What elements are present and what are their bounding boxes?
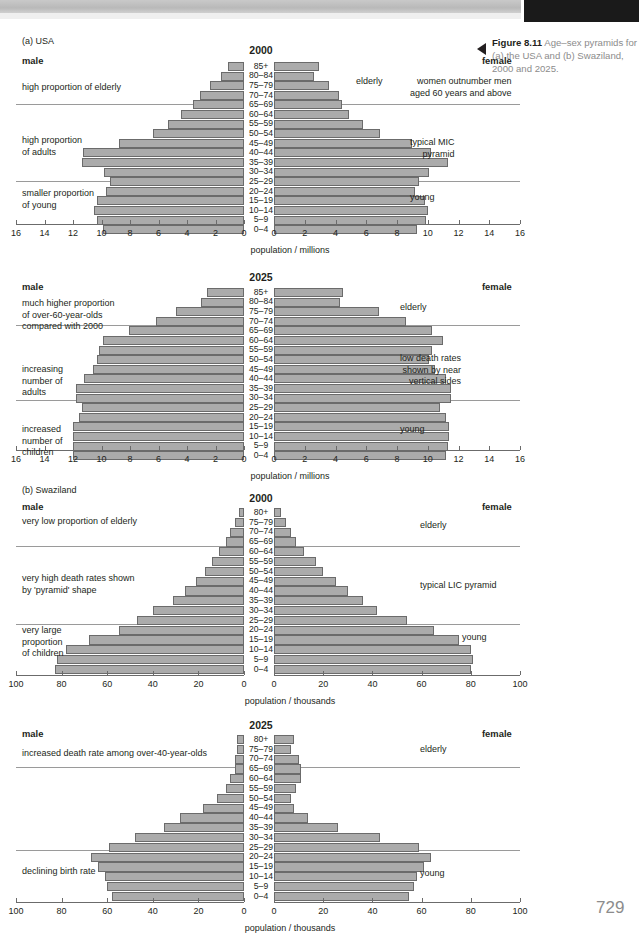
chart-title-year: 2025 xyxy=(230,719,292,731)
annotation-leader-line xyxy=(16,767,244,768)
axis-tick xyxy=(216,220,217,224)
axis-tick-label: 6 xyxy=(354,454,378,464)
bar-male-25–29 xyxy=(82,403,244,412)
axis-tick xyxy=(422,671,423,675)
axis-tick-label: 0 xyxy=(232,906,256,916)
bar-female-70–74 xyxy=(274,528,291,537)
bar-male-70–74 xyxy=(230,528,244,537)
bar-male-25–29 xyxy=(137,616,244,625)
axis-tick-label: 10 xyxy=(90,228,114,238)
axis-tick xyxy=(16,671,17,675)
axis-tick-label: 60 xyxy=(95,679,119,689)
bar-male-45–49 xyxy=(119,139,244,148)
axis-tick xyxy=(153,671,154,675)
bar-female-35–39 xyxy=(274,596,363,605)
bar-female-35–39 xyxy=(274,823,338,832)
page-number: 729 xyxy=(596,898,624,918)
male-label: male xyxy=(22,281,43,292)
bar-male-80+ xyxy=(237,735,244,744)
axis-tick xyxy=(159,446,160,450)
axis-tick xyxy=(45,220,46,224)
axis-tick xyxy=(16,898,17,902)
annotation-right: young xyxy=(410,192,435,204)
axis-tick-label: 80 xyxy=(50,906,74,916)
annotation-left: much higher proportion of over-60-year-o… xyxy=(22,298,115,333)
bar-male-10–14 xyxy=(73,432,244,441)
axis-tick xyxy=(274,898,275,902)
bar-female-20–24 xyxy=(274,853,431,862)
page-header-band xyxy=(0,0,521,13)
axis-tick xyxy=(216,446,217,450)
axis-tick xyxy=(198,898,199,902)
bar-male-50–54 xyxy=(217,794,244,803)
bar-male-40–44 xyxy=(84,374,244,383)
bar-female-15–19 xyxy=(274,862,424,871)
age-group-label: 0–4 xyxy=(246,892,276,902)
bar-female-65–69 xyxy=(274,537,296,546)
bar-female-85+ xyxy=(274,288,343,297)
annotation-left: increasing number of adults xyxy=(22,364,63,399)
axis-tick-label: 4 xyxy=(175,228,199,238)
axis-tick-label: 0 xyxy=(262,906,286,916)
axis-tick xyxy=(520,446,521,450)
age-group-label: 30–34 xyxy=(246,833,276,843)
bar-male-75–79 xyxy=(210,81,244,90)
bar-female-15–19 xyxy=(274,196,425,205)
bar-male-20–24 xyxy=(91,853,244,862)
bar-female-55–59 xyxy=(274,784,296,793)
bar-female-0–4 xyxy=(274,892,409,901)
bar-male-15–19 xyxy=(73,422,244,431)
bar-male-45–49 xyxy=(203,804,244,813)
axis-tick-label: 4 xyxy=(324,454,348,464)
axis-tick-label: 0 xyxy=(262,228,286,238)
bar-male-0–4 xyxy=(55,665,244,674)
bar-male-20–24 xyxy=(119,626,244,635)
bar-male-30–34 xyxy=(135,833,244,842)
bar-male-45–49 xyxy=(196,577,244,586)
axis-tick xyxy=(471,898,472,902)
axis-tick xyxy=(102,446,103,450)
bar-male-40–44 xyxy=(83,148,244,157)
bar-male-55–59 xyxy=(168,120,244,129)
x-axis-female xyxy=(274,675,520,676)
bar-male-40–44 xyxy=(185,586,244,595)
bar-female-60–64 xyxy=(274,774,301,783)
axis-tick-label: 60 xyxy=(95,906,119,916)
bar-male-80+ xyxy=(239,508,244,517)
axis-tick-label: 20 xyxy=(186,679,210,689)
axis-tick-label: 16 xyxy=(508,454,532,464)
bar-male-10–14 xyxy=(94,206,244,215)
chart-title-year: 2000 xyxy=(230,44,292,56)
axis-tick-label: 10 xyxy=(416,454,440,464)
bar-female-40–44 xyxy=(274,148,431,157)
bar-female-80–84 xyxy=(274,72,314,81)
axis-tick xyxy=(459,220,460,224)
bar-female-45–49 xyxy=(274,577,336,586)
axis-tick xyxy=(102,220,103,224)
bar-female-50–54 xyxy=(274,567,323,576)
axis-tick-label: 20 xyxy=(186,906,210,916)
bar-female-20–24 xyxy=(274,413,446,422)
axis-tick xyxy=(428,220,429,224)
axis-tick xyxy=(305,446,306,450)
bar-female-40–44 xyxy=(274,813,308,822)
bar-male-25–29 xyxy=(109,843,244,852)
axis-tick-label: 6 xyxy=(147,228,171,238)
bar-male-75–79 xyxy=(235,518,244,527)
x-axis-title: population / millions xyxy=(210,471,370,481)
axis-tick-label: 80 xyxy=(459,906,483,916)
bar-male-80–84 xyxy=(221,72,244,81)
bar-female-20–24 xyxy=(274,626,434,635)
axis-tick-label: 40 xyxy=(141,906,165,916)
bar-male-40–44 xyxy=(180,813,244,822)
x-axis-title: population / thousands xyxy=(210,696,370,706)
x-axis-female xyxy=(274,224,520,225)
bar-male-75–79 xyxy=(176,307,244,316)
bar-female-65–69 xyxy=(274,326,432,335)
axis-tick-label: 14 xyxy=(477,228,501,238)
axis-tick-label: 2 xyxy=(204,454,228,464)
bar-female-30–34 xyxy=(274,168,429,177)
axis-tick xyxy=(305,220,306,224)
axis-tick-label: 14 xyxy=(477,454,501,464)
axis-tick xyxy=(323,671,324,675)
